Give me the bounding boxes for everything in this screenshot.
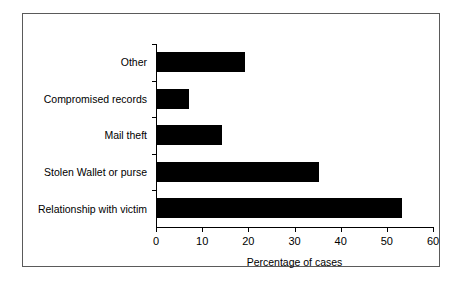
- bar-group: Relationship with victim: [156, 190, 433, 227]
- category-label: Compromised records: [29, 93, 156, 106]
- plot-area: Other Compromised records Mail theft Sto…: [156, 44, 433, 227]
- bar[interactable]: [157, 125, 222, 145]
- value-tick: [433, 227, 434, 232]
- bar[interactable]: [157, 162, 319, 182]
- value-tick: [248, 227, 249, 232]
- category-label: Stolen Wallet or purse: [29, 166, 156, 179]
- figure: Other Compromised records Mail theft Sto…: [0, 0, 462, 283]
- x-axis-title: Percentage of cases: [156, 256, 433, 268]
- chart-frame: Other Compromised records Mail theft Sto…: [22, 13, 440, 267]
- category-tick: [152, 117, 156, 118]
- value-tick-label: 20: [228, 235, 268, 248]
- bar-group: Mail theft: [156, 117, 433, 154]
- value-tick-label: 60: [413, 235, 453, 248]
- bar-group: Stolen Wallet or purse: [156, 154, 433, 191]
- value-tick-label: 0: [136, 235, 176, 248]
- bar[interactable]: [157, 52, 245, 72]
- value-tick-label: 30: [275, 235, 315, 248]
- value-tick: [156, 227, 157, 232]
- category-tick: [152, 81, 156, 82]
- category-label: Other: [29, 56, 156, 69]
- category-tick: [152, 154, 156, 155]
- category-tick: [152, 44, 156, 45]
- bar-group: Other: [156, 44, 433, 81]
- value-tick: [202, 227, 203, 232]
- value-tick: [387, 227, 388, 232]
- value-tick: [341, 227, 342, 232]
- bar-group: Compromised records: [156, 81, 433, 118]
- bar[interactable]: [157, 198, 402, 218]
- category-tick: [152, 190, 156, 191]
- category-label: Mail theft: [29, 129, 156, 142]
- value-tick-label: 10: [182, 235, 222, 248]
- value-tick-label: 40: [321, 235, 361, 248]
- value-tick-label: 50: [367, 235, 407, 248]
- category-label: Relationship with victim: [29, 202, 156, 215]
- bar[interactable]: [157, 89, 189, 109]
- value-tick: [295, 227, 296, 232]
